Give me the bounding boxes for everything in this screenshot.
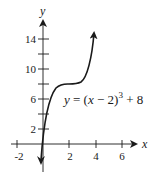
equation-label: y = (x − 2)3 + 8	[62, 90, 143, 107]
chart: -2 2 4 6 2 6 10 14 x y y = (x − 2)3 + 8	[0, 0, 155, 175]
x-tick-label-neg2: -2	[14, 150, 23, 162]
y-tick-label-2: 2	[31, 123, 37, 135]
equation-rest: − 2)	[94, 92, 119, 107]
y-axis-label: y	[39, 4, 46, 18]
y-tick-label-10: 10	[25, 63, 37, 75]
y-tick-label-14: 14	[25, 33, 37, 45]
equation-eq: = (	[70, 92, 88, 107]
x-tick-label-6: 6	[119, 150, 125, 162]
x-tick-label-2: 2	[67, 150, 73, 162]
x-tick-label-4: 4	[93, 150, 99, 162]
y-ticks	[38, 39, 49, 129]
x-axis-label: x	[141, 137, 148, 151]
equation-tail: + 8	[123, 92, 143, 107]
y-tick-label-6: 6	[31, 93, 37, 105]
